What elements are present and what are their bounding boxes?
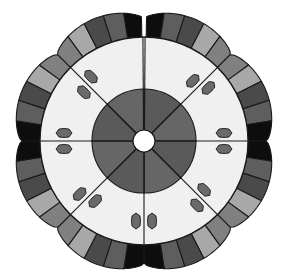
slit-line <box>144 37 145 130</box>
holly-leaf-icon <box>132 213 141 229</box>
tree-skirt-illustration <box>0 0 290 280</box>
slit-line <box>143 37 144 130</box>
band-segment <box>144 244 164 269</box>
holly-leaf-icon <box>56 129 72 138</box>
holly-leaf-icon <box>56 145 72 154</box>
holly-leaf-icon <box>216 129 232 138</box>
center-hole-circle <box>133 130 155 152</box>
holly-leaf-icon <box>148 213 157 229</box>
holly-leaf-icon <box>216 145 232 154</box>
band-segment <box>16 141 41 161</box>
band-segment <box>247 121 272 141</box>
tree-skirt-figure <box>0 0 290 280</box>
center-hole <box>133 130 155 152</box>
